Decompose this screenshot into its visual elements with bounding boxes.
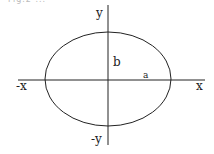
label-y-negative: -y [91, 133, 102, 145]
label-semi-minor-b: b [113, 56, 121, 68]
label-x-negative: -x [16, 80, 27, 92]
ellipse-figure [0, 0, 214, 154]
label-y-positive: y [96, 7, 103, 19]
label-semi-major-a: a [143, 69, 148, 81]
label-x-positive: x [196, 80, 203, 92]
